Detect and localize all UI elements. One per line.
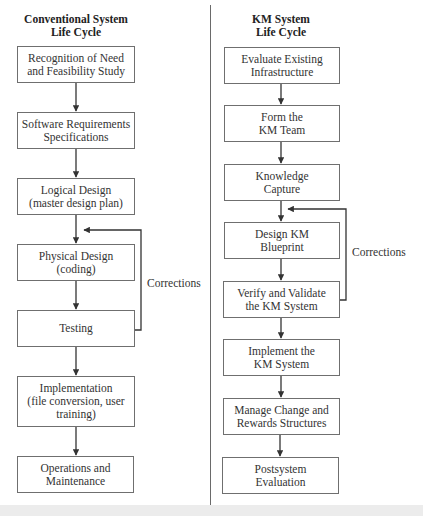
column-divider [210, 5, 211, 505]
step-label: and Feasibility Study [27, 65, 125, 78]
step-label: Capture [255, 183, 308, 196]
right-column-title: KM System Life Cycle [213, 13, 349, 39]
step-label: Infrastructure [241, 66, 322, 79]
step-label: Specifications [22, 131, 130, 144]
step-label: (file conversion, user [27, 395, 124, 408]
left-step-4-physical-design: Physical Design (coding) [17, 244, 135, 281]
step-label: Design KM [255, 228, 309, 241]
right-step-5-verify-validate: Verify and Validate the KM System [223, 281, 340, 318]
step-label: Blueprint [255, 241, 309, 254]
step-label: Testing [59, 322, 93, 335]
right-step-2-form-km-team: Form the KM Team [224, 105, 340, 142]
step-label: KM System [248, 358, 315, 371]
right-step-1-evaluate-infrastructure: Evaluate Existing Infrastructure [224, 47, 340, 84]
left-column-title: Conventional System Life Cycle [8, 13, 144, 39]
step-label: Implementation [27, 382, 124, 395]
bottom-band [0, 505, 423, 516]
left-title-line1: Conventional System [8, 13, 144, 26]
left-step-5-testing: Testing [17, 310, 135, 347]
step-label: Recognition of Need [27, 52, 125, 65]
right-step-3-knowledge-capture: Knowledge Capture [224, 164, 340, 201]
step-label: Maintenance [41, 475, 111, 488]
step-label: Postsystem [255, 463, 307, 476]
left-step-2-software-requirements: Software Requirements Specifications [17, 112, 135, 149]
step-label: (coding) [39, 263, 113, 276]
left-step-1-recognition-of-need: Recognition of Need and Feasibility Stud… [17, 46, 135, 83]
left-step-3-logical-design: Logical Design (master design plan) [17, 178, 135, 215]
step-label: Evaluation [255, 476, 307, 489]
step-label: Verify and Validate [237, 287, 326, 300]
step-label: Knowledge [255, 170, 308, 183]
step-label: training) [27, 408, 124, 421]
right-title-line1: KM System [213, 13, 349, 26]
step-label: Form the [259, 111, 306, 124]
step-label: the KM System [237, 300, 326, 313]
left-title-line2: Life Cycle [8, 26, 144, 39]
left-step-6-implementation: Implementation (file conversion, user tr… [17, 376, 135, 427]
right-step-6-implement-km-system: Implement the KM System [223, 339, 340, 376]
right-title-line2: Life Cycle [213, 26, 349, 39]
right-step-8-postsystem-evaluation: Postsystem Evaluation [222, 457, 339, 494]
right-step-4-design-km-blueprint: Design KM Blueprint [224, 222, 340, 259]
step-label: (master design plan) [29, 197, 123, 210]
step-label: Logical Design [29, 184, 123, 197]
step-label: Implement the [248, 345, 315, 358]
step-label: KM Team [259, 124, 306, 137]
right-step-7-manage-change: Manage Change and Rewards Structures [223, 398, 340, 435]
left-corrections-label: Corrections [147, 277, 201, 290]
step-label: Manage Change and [234, 404, 329, 417]
step-label: Software Requirements [22, 118, 130, 131]
left-step-7-operations-maintenance: Operations and Maintenance [17, 456, 134, 493]
step-label: Evaluate Existing [241, 53, 322, 66]
step-label: Rewards Structures [234, 417, 329, 430]
step-label: Operations and [41, 462, 111, 475]
diagram-canvas: Conventional System Life Cycle KM System… [0, 0, 423, 505]
step-label: Physical Design [39, 250, 113, 263]
right-corrections-label: Corrections [352, 246, 406, 259]
